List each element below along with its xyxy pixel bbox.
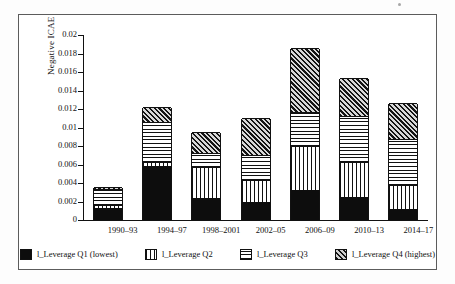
legend-label: l_Leverage Q3: [257, 249, 308, 259]
bar-segment-q1: [192, 198, 220, 220]
y-tick-label: 0.008: [35, 141, 77, 149]
y-tick-label: 0.02: [35, 30, 77, 38]
bar-2010–13: [339, 79, 369, 221]
y-tick-label: 0: [35, 215, 77, 223]
y-tick: [78, 128, 83, 129]
y-tick: [78, 91, 83, 92]
bar-segment-q2: [291, 146, 319, 190]
y-tick-label: 0.016: [35, 67, 77, 75]
y-tick: [78, 220, 83, 221]
bar-segment-q1: [389, 209, 417, 220]
y-tick: [78, 54, 83, 55]
chart-frame: Negative ICAE 00.0020.0040.0060.0080.010…: [18, 14, 437, 270]
legend-item-q2[interactable]: l_Leverage Q2: [145, 249, 213, 260]
bar-segment-q3: [192, 153, 220, 167]
bar-segment-q3: [389, 139, 417, 185]
plot-area: 00.0020.0040.0060.0080.010.0120.0140.016…: [83, 35, 428, 221]
chart-legend: l_Leverage Q1 (lowest)l_Leverage Q2l_Lev…: [20, 243, 435, 265]
y-tick: [78, 183, 83, 184]
y-tick: [78, 35, 83, 36]
y-tick: [78, 146, 83, 147]
bar-2002–05: [241, 119, 271, 221]
y-tick: [78, 109, 83, 110]
y-tick-label: 0.002: [35, 197, 77, 205]
bar-segment-q1: [94, 208, 122, 220]
bar-1998–2001: [191, 133, 221, 221]
bar-segment-q4: [291, 48, 319, 112]
y-tick-label: 0.012: [35, 104, 77, 112]
legend-label: l_Leverage Q1 (lowest): [37, 249, 118, 259]
bar-segment-q3: [340, 116, 368, 161]
bar-segment-q4: [192, 132, 220, 153]
bar-segment-q3: [143, 122, 171, 162]
legend-item-q3[interactable]: l_Leverage Q3: [240, 249, 308, 260]
bar-segment-q2: [389, 185, 417, 209]
legend-label: l_Leverage Q2: [162, 249, 213, 259]
y-tick-label: 0.004: [35, 178, 77, 186]
scan-artifact-speck: [398, 3, 401, 6]
bar-segment-q4: [242, 118, 270, 155]
legend-swatch-q3-icon: [240, 249, 252, 260]
y-tick-label: 0.01: [35, 123, 77, 131]
bar-segment-q3: [291, 112, 319, 146]
y-tick: [78, 165, 83, 166]
y-tick-label: 0.006: [35, 160, 77, 168]
y-tick: [78, 202, 83, 203]
bar-segment-q4: [94, 187, 122, 189]
chart-page: Negative ICAE 00.0020.0040.0060.0080.010…: [0, 0, 455, 284]
bar-2014–17: [388, 104, 418, 221]
legend-item-q4[interactable]: l_Leverage Q4 (highest): [335, 249, 435, 260]
y-tick: [78, 72, 83, 73]
bar-segment-q2: [143, 162, 171, 167]
bar-segment-q1: [340, 197, 368, 220]
bar-segment-q2: [242, 180, 270, 201]
bar-segment-q1: [143, 166, 171, 220]
bar-segment-q3: [94, 189, 122, 206]
y-tick-label: 0.018: [35, 49, 77, 57]
bar-segment-q2: [340, 162, 368, 197]
bar-segment-q1: [291, 190, 319, 220]
bar-1994–97: [142, 108, 172, 221]
bar-2006–09: [290, 49, 320, 221]
legend-label: l_Leverage Q4 (highest): [352, 249, 435, 259]
bar-segment-q1: [242, 202, 270, 221]
y-tick-label: 0.014: [35, 86, 77, 94]
bar-segment-q4: [389, 103, 417, 138]
bar-segment-q4: [340, 78, 368, 117]
y-axis-line: [83, 35, 84, 221]
x-tick-label: 2014–17: [376, 225, 455, 235]
legend-swatch-q4-icon: [335, 249, 347, 260]
bar-segment-q3: [242, 155, 270, 180]
legend-swatch-q1-icon: [20, 249, 32, 260]
bar-segment-q4: [143, 107, 171, 122]
bar-1990–93: [93, 188, 123, 221]
bar-segment-q2: [192, 167, 220, 198]
bar-segment-q2: [94, 205, 122, 208]
legend-swatch-q2-icon: [145, 249, 157, 260]
legend-item-q1[interactable]: l_Leverage Q1 (lowest): [20, 249, 118, 260]
